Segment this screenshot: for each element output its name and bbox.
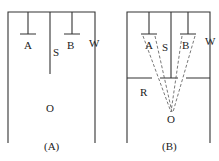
figure-a: A S B W O (A) (8, 12, 100, 153)
figure-a-electrode-b (64, 12, 80, 34)
figure-b-label-r: R (140, 86, 148, 98)
figure-b: A S B W R O (B) (127, 12, 216, 153)
figure-b-label-s: S (162, 41, 168, 53)
figure-a-caption: (A) (44, 140, 60, 153)
figure-b-caption: (B) (162, 140, 177, 153)
figure-b-label-b: B (182, 39, 189, 51)
figure-a-label-s: S (53, 46, 59, 58)
figure-b-electrode-a (141, 12, 157, 34)
figure-a-electrode-a (20, 12, 36, 34)
diagram-canvas: A S B W O (A) A S B W R O (B) (0, 0, 219, 161)
figure-b-label-w: W (205, 35, 216, 47)
figure-b-label-a: A (145, 39, 153, 51)
figure-a-walls (8, 12, 95, 143)
figure-a-label-w: W (89, 37, 100, 49)
figure-a-label-a: A (24, 39, 32, 51)
figure-a-label-o: O (46, 102, 54, 114)
figure-b-electrode-b (180, 12, 196, 34)
figure-b-label-o: O (167, 113, 175, 125)
figure-a-label-b: B (67, 39, 74, 51)
